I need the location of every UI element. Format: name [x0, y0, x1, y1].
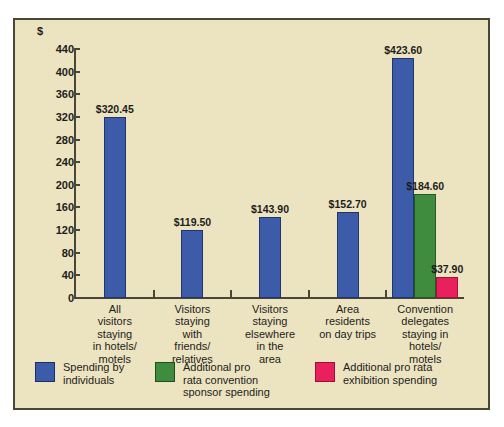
y-tick-mark: [74, 71, 80, 73]
legend-item[interactable]: Additional pro rataexhibition spending: [315, 361, 472, 399]
y-tick-label: 360: [38, 88, 74, 100]
bar-holder: $152.70: [337, 212, 359, 298]
y-tick-mark: [74, 184, 80, 186]
chart-figure: $ 44040036032028024020016012080400 $320.…: [13, 18, 490, 410]
bar-value-label: $119.50: [174, 216, 211, 228]
x-tick-mark: [308, 290, 310, 298]
bar-value-label: $143.90: [251, 203, 289, 215]
y-tick-mark: [74, 161, 80, 163]
category-label-line: Visitors: [154, 303, 232, 315]
bar-cluster: $119.50: [181, 49, 203, 298]
category-label-line: staying: [154, 315, 232, 327]
bar[interactable]: [259, 217, 281, 298]
bar[interactable]: [436, 277, 458, 298]
legend-label: Spending byindividuals: [63, 361, 124, 386]
bar-value-label: $152.70: [329, 198, 367, 210]
x-tick-mark: [385, 290, 387, 298]
chart-legend: Spending byindividualsAdditional prorata…: [35, 361, 472, 399]
legend-swatch-green: [155, 362, 175, 382]
bar-group: $119.50: [181, 49, 203, 298]
category-label-line: visitors: [76, 315, 154, 327]
y-tick-label: 320: [38, 111, 74, 123]
category-label-line: residents: [309, 315, 387, 327]
bar-holder: $37.90: [436, 277, 458, 298]
y-tick-label: 280: [38, 134, 74, 146]
y-tick-label: 240: [38, 156, 74, 168]
category-label-line: delegates: [386, 315, 464, 327]
bar-value-label: $184.60: [406, 180, 444, 192]
category-label-line: Convention: [386, 303, 464, 315]
plot-area: $ 44040036032028024020016012080400 $320.…: [15, 20, 492, 412]
x-tick-mark: [230, 290, 232, 298]
legend-label: Additional prorata conventionsponsor spe…: [183, 361, 270, 399]
bar-holder: $320.45: [104, 117, 126, 298]
y-tick-mark: [74, 252, 80, 254]
y-tick-mark: [74, 206, 80, 208]
legend-item[interactable]: Spending byindividuals: [35, 361, 155, 399]
category-label-line: in hotels/: [76, 340, 154, 352]
bar[interactable]: [181, 230, 203, 298]
legend-label-line: Additional pro rata: [343, 361, 437, 374]
category-label-line: with: [154, 328, 232, 340]
category-label-line: in the: [231, 340, 309, 352]
legend-label-line: individuals: [63, 374, 124, 387]
category-label-line: staying in: [386, 328, 464, 340]
legend-label-line: Spending by: [63, 361, 124, 374]
y-tick-label: 160: [38, 201, 74, 213]
y-tick-label: 200: [38, 179, 74, 191]
bar-group: $143.90: [259, 49, 281, 298]
y-tick-label: 40: [38, 269, 74, 281]
bar[interactable]: [414, 194, 436, 298]
bar-cluster: $320.45: [104, 49, 126, 298]
legend-label-line: sponsor spending: [183, 386, 270, 399]
category-label-line: Area: [309, 303, 387, 315]
bar[interactable]: [392, 58, 414, 298]
bar-group: $423.60$184.60$37.90: [392, 49, 458, 298]
y-tick-mark: [74, 93, 80, 95]
legend-label-line: exhibition spending: [343, 374, 437, 387]
bar-holder: $143.90: [259, 217, 281, 298]
bar-group: $152.70: [337, 49, 359, 298]
legend-swatch-pink: [315, 362, 335, 382]
bar-holder: $423.60: [392, 58, 414, 298]
y-tick-label: 120: [38, 224, 74, 236]
category-label-line: on day trips: [309, 328, 387, 340]
bar-cluster: $423.60$184.60$37.90: [392, 49, 458, 298]
legend-item[interactable]: Additional prorata conventionsponsor spe…: [155, 361, 315, 399]
bar[interactable]: [337, 212, 359, 298]
x-axis-category-label: Conventiondelegatesstaying inhotels/mote…: [386, 303, 464, 365]
y-axis-line: [74, 49, 76, 298]
category-label-line: friends/: [154, 340, 232, 352]
legend-swatch-blue: [35, 362, 55, 382]
x-axis-category-label: Allvisitorsstayingin hotels/motels: [76, 303, 154, 365]
bar-holder: $119.50: [181, 230, 203, 298]
bar-cluster: $143.90: [259, 49, 281, 298]
x-tick-mark: [153, 290, 155, 298]
y-tick-label: 440: [38, 43, 74, 55]
y-tick-mark: [74, 229, 80, 231]
y-tick-mark: [74, 48, 80, 50]
category-label-line: All: [76, 303, 154, 315]
category-label-line: staying: [231, 315, 309, 327]
bar-value-label: $423.60: [384, 44, 422, 56]
category-label-line: elsewhere: [231, 328, 309, 340]
y-tick-label: 80: [38, 247, 74, 259]
bar-group: $320.45: [104, 49, 126, 298]
y-tick-label: 0: [38, 292, 74, 304]
legend-label: Additional pro rataexhibition spending: [343, 361, 437, 386]
bar-holder: $184.60: [414, 194, 436, 298]
y-tick-label: 400: [38, 66, 74, 78]
y-tick-mark: [74, 116, 80, 118]
bar-cluster: $152.70: [337, 49, 359, 298]
bar[interactable]: [104, 117, 126, 298]
x-axis-category-label: Visitorsstayingelsewherein thearea: [231, 303, 309, 365]
y-tick-mark: [74, 139, 80, 141]
category-label-line: Visitors: [231, 303, 309, 315]
y-tick-mark: [74, 274, 80, 276]
y-axis-currency-label: $: [37, 25, 43, 37]
x-axis-category-label: Arearesidentson day trips: [309, 303, 387, 340]
legend-label-line: Additional pro: [183, 361, 270, 374]
bar-value-label: $37.90: [431, 263, 463, 275]
legend-label-line: rata convention: [183, 374, 270, 387]
x-axis-category-label: Visitorsstayingwithfriends/relatives: [154, 303, 232, 365]
